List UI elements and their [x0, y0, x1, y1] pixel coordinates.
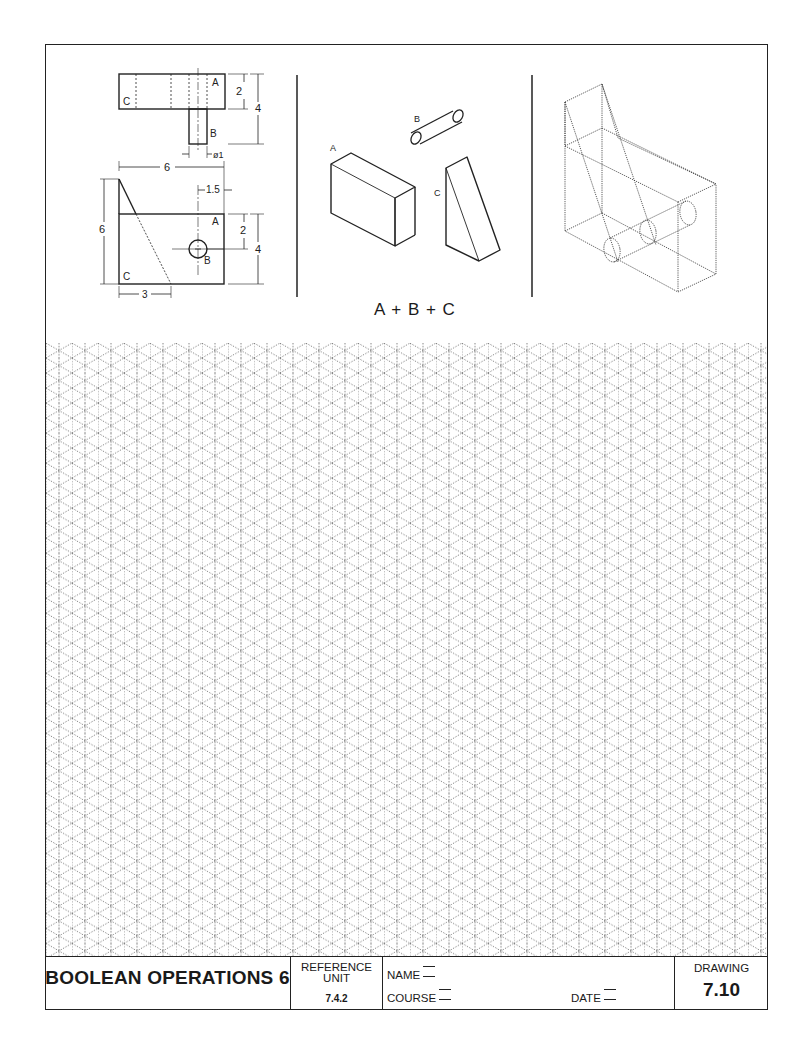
date-field[interactable]: DATE: [571, 992, 616, 1004]
reference-unit-label: REFERENCE UNIT: [291, 962, 382, 984]
svg-text:A: A: [212, 216, 219, 227]
top-view: [119, 68, 264, 158]
reference-unit-value: 7.4.2: [291, 993, 382, 1004]
part-a-box: [331, 153, 415, 246]
isometric-grid: [46, 343, 767, 956]
title-cell: BOOLEAN OPERATIONS 6: [45, 957, 290, 1010]
svg-text:B: B: [204, 255, 211, 266]
course-label: COURSE: [387, 992, 436, 1004]
title-block: BOOLEAN OPERATIONS 6 REFERENCE UNIT 7.4.…: [45, 956, 768, 1010]
drawing-art: A C B 2 4 ø1: [0, 0, 790, 1060]
svg-text:3: 3: [142, 289, 148, 300]
svg-text:2: 2: [236, 85, 242, 97]
svg-text:A: A: [330, 143, 336, 153]
drawing-number: 7.10: [675, 979, 768, 1001]
svg-text:ø1: ø1: [213, 150, 224, 160]
part-c-wedge: [446, 157, 500, 261]
course-blank[interactable]: [439, 1001, 451, 1002]
student-info-cell: NAME COURSE DATE: [382, 957, 674, 1010]
drawing-number-cell: DRAWING 7.10: [674, 957, 768, 1010]
svg-text:1.5: 1.5: [206, 184, 220, 195]
svg-text:C: C: [123, 271, 130, 282]
drawing-label: DRAWING: [675, 962, 768, 974]
name-field[interactable]: NAME: [387, 969, 435, 981]
svg-text:C: C: [123, 96, 130, 107]
boolean-formula: A + B + C: [300, 300, 530, 320]
sheet-title: BOOLEAN OPERATIONS 6: [45, 967, 290, 989]
svg-text:6: 6: [99, 223, 105, 235]
svg-text:B: B: [414, 114, 420, 124]
date-label: DATE: [571, 992, 601, 1004]
svg-text:A: A: [212, 77, 219, 88]
name-blank[interactable]: [423, 978, 435, 979]
svg-text:2: 2: [240, 224, 246, 236]
svg-text:4: 4: [255, 243, 261, 255]
result-wireframe: [565, 84, 716, 292]
svg-text:B: B: [210, 128, 217, 139]
date-blank[interactable]: [604, 1001, 616, 1002]
reference-unit-cell: REFERENCE UNIT 7.4.2: [290, 957, 382, 1010]
course-field[interactable]: COURSE: [387, 992, 451, 1004]
reference-label-line2: UNIT: [291, 973, 382, 984]
svg-text:6: 6: [164, 161, 170, 173]
name-label: NAME: [387, 969, 420, 981]
svg-text:4: 4: [255, 102, 261, 114]
svg-text:C: C: [434, 188, 441, 198]
